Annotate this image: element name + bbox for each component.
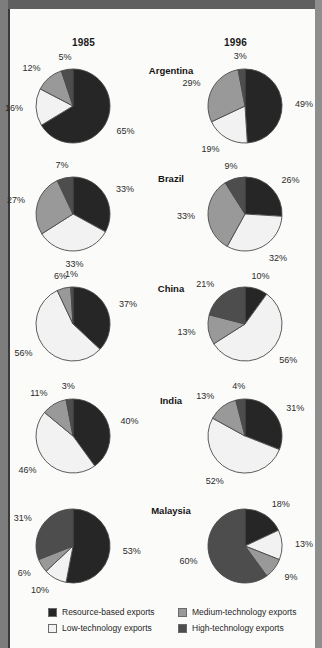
- pie-value-label: 4%: [232, 382, 245, 391]
- legend-label-resource: Resource-based exports: [62, 607, 155, 617]
- pie-chart-argentina-1996: 49%19%29%3%: [180, 53, 310, 161]
- legend: Resource-based exports Low-technology ex…: [48, 607, 308, 637]
- scan-edge-left: [0, 0, 8, 648]
- pie-graphic: [206, 507, 284, 585]
- column-header-1985: 1985: [72, 37, 95, 48]
- pie-chart-india-1985: 40%46%11%3%: [20, 383, 150, 491]
- pie-value-label: 46%: [19, 466, 37, 475]
- pie-graphic: [206, 397, 284, 475]
- chart-row-argentina: Argentina65%16%12%5%49%19%29%3%: [10, 53, 317, 163]
- pie-value-label: 52%: [206, 477, 224, 486]
- pie-value-label: 31%: [286, 404, 304, 413]
- legend-label-medium: Medium-technology exports: [192, 607, 296, 617]
- chart-row-malaysia: Malaysia53%10%6%31%18%13%9%60%: [10, 493, 317, 603]
- pie-value-label: 7%: [56, 161, 69, 170]
- pie-slice-resource: [245, 177, 282, 216]
- scan-edge-top: [0, 0, 322, 9]
- pie-graphic: [206, 67, 284, 145]
- pie-graphic: [34, 397, 112, 475]
- pie-graphic: [206, 285, 284, 363]
- legend-swatch-low: [48, 624, 57, 633]
- pie-value-label: 6%: [18, 569, 31, 578]
- legend-swatch-resource: [48, 608, 57, 617]
- pie-chart-argentina-1985: 65%16%12%5%: [20, 53, 150, 161]
- pie-value-label: 27%: [7, 196, 25, 205]
- pie-value-label: 26%: [281, 176, 299, 185]
- figure-container: 1985 1996 Argentina65%16%12%5%49%19%29%3…: [0, 0, 322, 648]
- pie-value-label: 5%: [59, 53, 72, 62]
- pie-graphic: [34, 285, 112, 363]
- legend-label-low: Low-technology exports: [62, 623, 152, 633]
- chart-row-china: China37%56%6%1%10%56%13%21%: [10, 271, 317, 381]
- pie-slice-resource: [245, 69, 282, 143]
- pie-chart-china-1985: 37%56%6%1%: [20, 271, 150, 379]
- page-surface: 1985 1996 Argentina65%16%12%5%49%19%29%3…: [8, 9, 315, 648]
- pie-value-label: 65%: [117, 127, 135, 136]
- column-headers: 1985 1996: [10, 37, 317, 51]
- pie-value-label: 31%: [14, 514, 32, 523]
- pie-value-label: 49%: [295, 100, 313, 109]
- pie-value-label: 21%: [196, 280, 214, 289]
- pie-value-label: 29%: [182, 79, 200, 88]
- pie-value-label: 32%: [269, 254, 287, 263]
- pie-value-label: 9%: [225, 162, 238, 171]
- pie-value-label: 40%: [121, 417, 139, 426]
- pie-value-label: 12%: [23, 64, 41, 73]
- pie-value-label: 33%: [66, 260, 84, 269]
- pie-value-label: 16%: [5, 104, 23, 113]
- pie-chart-brazil-1985: 33%33%27%7%: [20, 161, 150, 269]
- pie-value-label: 13%: [295, 540, 313, 549]
- pie-value-label: 60%: [179, 557, 197, 566]
- chart-row-india: India40%46%11%3%31%52%13%4%: [10, 383, 317, 493]
- pie-value-label: 56%: [279, 356, 297, 365]
- pie-value-label: 9%: [285, 573, 298, 582]
- pie-chart-india-1996: 31%52%13%4%: [180, 383, 310, 491]
- pie-chart-malaysia-1996: 18%13%9%60%: [180, 493, 310, 601]
- pie-value-label: 33%: [116, 185, 134, 194]
- legend-swatch-medium: [178, 608, 187, 617]
- legend-label-high: High-technology exports: [192, 623, 284, 633]
- pie-graphic: [34, 67, 112, 145]
- pie-graphic: [206, 175, 284, 253]
- pie-value-label: 18%: [272, 500, 290, 509]
- pie-chart-china-1996: 10%56%13%21%: [180, 271, 310, 379]
- pie-graphic: [34, 175, 112, 253]
- column-header-1996: 1996: [224, 37, 247, 48]
- legend-swatch-high: [178, 624, 187, 633]
- pie-value-label: 37%: [119, 300, 137, 309]
- pie-value-label: 13%: [196, 392, 214, 401]
- pie-value-label: 10%: [31, 586, 49, 595]
- pie-value-label: 53%: [123, 547, 141, 556]
- pie-value-label: 3%: [234, 52, 247, 61]
- pie-value-label: 1%: [65, 270, 78, 279]
- pie-chart-brazil-1996: 26%32%33%9%: [180, 161, 310, 269]
- pie-value-label: 13%: [178, 328, 196, 337]
- pie-value-label: 11%: [30, 389, 47, 398]
- pie-value-label: 19%: [202, 145, 220, 154]
- pie-value-label: 3%: [62, 382, 75, 391]
- pie-value-label: 10%: [251, 272, 269, 281]
- pie-value-label: 33%: [177, 212, 195, 221]
- pie-chart-malaysia-1985: 53%10%6%31%: [20, 493, 150, 601]
- chart-row-brazil: Brazil33%33%27%7%26%32%33%9%: [10, 161, 317, 271]
- pie-value-label: 56%: [15, 349, 33, 358]
- pie-graphic: [34, 507, 112, 585]
